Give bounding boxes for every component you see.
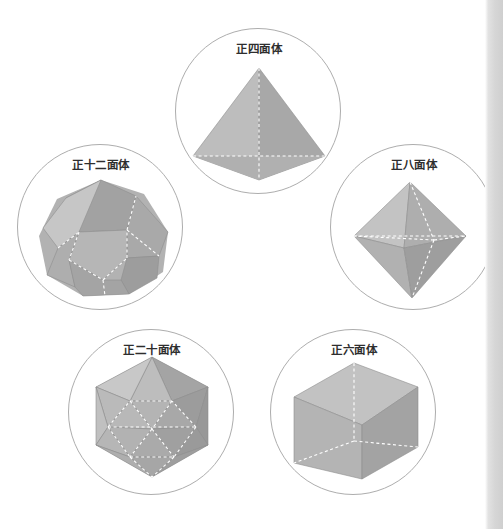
solid-label-tetrahedron: 正四面体	[175, 42, 343, 56]
solid-label-octahedron: 正八面体	[330, 158, 498, 172]
solid-label-icosahedron: 正二十面体	[68, 343, 236, 357]
solid-card-tetrahedron: 正四面体	[175, 28, 343, 196]
solid-card-octahedron: 正八面体	[330, 144, 498, 312]
solid-label-hexahedron: 正六面体	[270, 343, 438, 357]
solid-card-dodecahedron: 正十二面体	[17, 144, 185, 312]
platonic-solids-figure: 正四面体 正十二面体	[0, 0, 503, 529]
solid-card-icosahedron: 正二十面体	[68, 329, 236, 497]
solid-label-dodecahedron: 正十二面体	[17, 158, 185, 172]
solid-card-hexahedron: 正六面体	[270, 329, 438, 497]
